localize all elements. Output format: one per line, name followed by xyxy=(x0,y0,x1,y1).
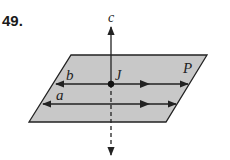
label-a: a xyxy=(56,87,64,103)
plane-diagram: c J P b a xyxy=(0,0,230,160)
point-j xyxy=(108,81,114,87)
label-j: J xyxy=(115,68,122,83)
label-c: c xyxy=(108,10,115,25)
label-p: P xyxy=(182,60,192,76)
label-b: b xyxy=(66,67,74,83)
